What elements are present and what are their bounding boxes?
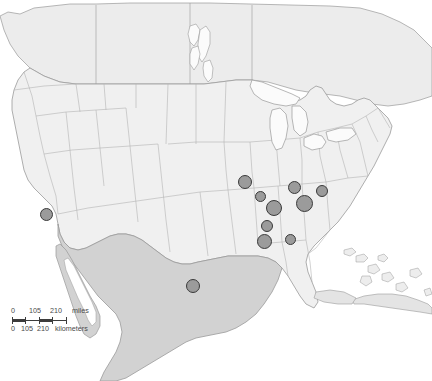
marker-california[interactable] (40, 208, 53, 221)
scale-km-zero-label: 0 (11, 325, 15, 332)
scale-miles-unit-label: miles (72, 307, 89, 314)
scale-bar-kilometers-labels: 0 105 210 kilometers (11, 325, 103, 335)
scale-ruler-tick-0 (12, 317, 13, 324)
marker-missouri-e[interactable] (255, 191, 266, 202)
marker-kentucky[interactable] (296, 195, 313, 212)
marker-texas[interactable] (186, 279, 200, 293)
scale-km-max-label: 210 (37, 325, 49, 332)
scale-miles-max-label: 210 (50, 307, 62, 314)
scale-ruler-segment-1 (12, 319, 25, 322)
scale-bar: 0 105 210 miles 0 105 210 kilometers (11, 307, 103, 335)
scale-km-mid-label: 105 (21, 325, 33, 332)
scale-ruler-tick-4 (66, 317, 67, 324)
marker-mississippi[interactable] (285, 234, 296, 245)
scale-ruler-tick-3 (52, 317, 53, 324)
scale-ruler-segment-2 (39, 319, 52, 322)
marker-arkansas-s[interactable] (257, 234, 272, 249)
marker-missouri-s[interactable] (266, 200, 282, 216)
scale-km-unit-label: kilometers (55, 325, 88, 332)
scale-miles-zero-label: 0 (11, 307, 15, 314)
distribution-map-figure: 0 105 210 miles 0 105 210 kilometers (0, 0, 432, 381)
marker-tennessee-e[interactable] (316, 185, 328, 197)
scale-ruler-tick-2 (39, 317, 40, 324)
scale-miles-mid-label: 105 (29, 307, 41, 314)
scale-bar-ruler (11, 317, 103, 324)
marker-illinois[interactable] (288, 181, 301, 194)
scale-bar-miles-labels: 0 105 210 miles (11, 307, 103, 316)
scale-ruler-tick-1 (25, 317, 26, 324)
marker-missouri-n[interactable] (238, 175, 252, 189)
marker-arkansas-n[interactable] (261, 220, 273, 232)
